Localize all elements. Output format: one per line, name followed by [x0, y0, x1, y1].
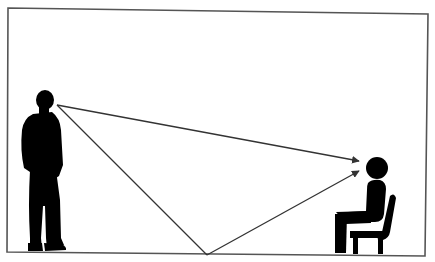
seated-person-on-chair-icon — [335, 157, 396, 254]
floor-reflection-incident-line — [57, 105, 207, 255]
diagram-svg — [0, 0, 435, 262]
standing-person-silhouette — [21, 90, 66, 251]
direct-line-of-sight-arrow — [57, 105, 359, 161]
diagram-canvas — [0, 0, 435, 262]
